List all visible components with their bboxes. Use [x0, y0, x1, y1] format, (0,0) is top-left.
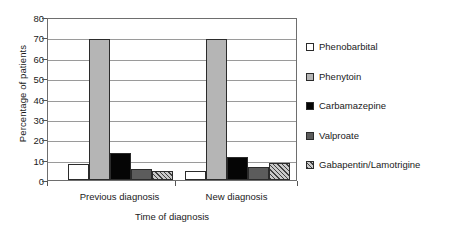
legend-label: Phenytoin	[319, 72, 361, 82]
bar	[206, 39, 227, 180]
bar	[131, 169, 152, 180]
bar-group-layer	[48, 19, 296, 180]
y-tick-label: 10	[4, 155, 44, 166]
legend-swatch-icon	[306, 161, 314, 169]
legend-swatch-icon	[306, 73, 314, 81]
bar	[269, 163, 290, 180]
legend-label: Valproate	[319, 131, 359, 141]
x-tick-mark	[47, 181, 48, 186]
x-axis-title: Time of diagnosis	[47, 211, 297, 222]
y-tick-label: 60	[4, 53, 44, 64]
legend-swatch-icon	[306, 102, 314, 110]
bar	[248, 167, 269, 180]
y-tick-label: 20	[4, 135, 44, 146]
bar	[110, 153, 131, 181]
x-category-label: Previous diagnosis	[80, 191, 160, 202]
x-category-label: New diagnosis	[206, 191, 268, 202]
y-tick-label: 50	[4, 74, 44, 85]
bar-chart-figure: Percentage of patients 01020304050607080…	[0, 0, 452, 233]
legend-item: Gabapentin/Lamotrigine	[306, 159, 420, 171]
legend-label: Carbamazepine	[319, 101, 386, 111]
legend-swatch-icon	[306, 43, 314, 51]
legend-label: Gabapentin/Lamotrigine	[319, 160, 420, 170]
y-tick-label: 70	[4, 33, 44, 44]
y-tick-label: 40	[4, 94, 44, 105]
legend-item: Phenobarbital	[306, 41, 420, 53]
y-tick-label: 30	[4, 114, 44, 125]
y-tick-label: 80	[4, 13, 44, 24]
bar	[185, 171, 206, 180]
legend: PhenobarbitalPhenytoinCarbamazepineValpr…	[306, 41, 420, 189]
plot-area	[47, 18, 297, 181]
x-tick-mark	[175, 181, 176, 186]
legend-label: Phenobarbital	[319, 42, 378, 52]
bar	[227, 157, 248, 180]
x-tick-mark	[297, 181, 298, 186]
bar	[68, 164, 89, 180]
legend-item: Phenytoin	[306, 71, 420, 83]
bar	[152, 171, 173, 180]
legend-item: Carbamazepine	[306, 100, 420, 112]
bar	[89, 39, 110, 180]
legend-item: Valproate	[306, 130, 420, 142]
y-tick-label: 0	[4, 176, 44, 187]
legend-swatch-icon	[306, 132, 314, 140]
